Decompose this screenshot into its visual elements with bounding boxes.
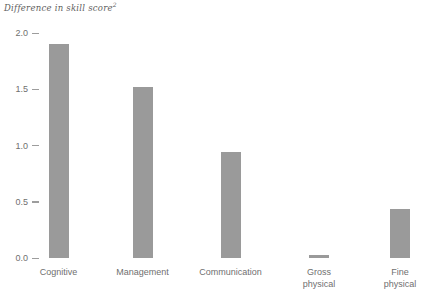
y-axis-tick: 0.5 (0, 196, 40, 208)
y-axis-tick-label: 1.0 (15, 140, 28, 152)
y-axis-tick-mark (32, 201, 39, 202)
y-axis-tick: 0.0 (0, 252, 40, 264)
x-axis-label-cognitive: Cognitive (40, 267, 78, 279)
y-axis-tick-mark (32, 89, 39, 90)
y-axis-tick-label: 0.5 (15, 196, 28, 208)
y-axis-tick-label: 0.0 (15, 252, 28, 264)
x-axis-label-fine-physical: Fine physical (384, 267, 417, 290)
y-axis-tick: 1.5 (0, 83, 40, 95)
y-axis-tick-label: 2.0 (15, 27, 28, 39)
plot-area: 0.00.51.01.52.0 CognitiveManagementCommu… (0, 0, 436, 302)
x-axis-label-communication: Communication (199, 267, 262, 279)
bar-communication (221, 152, 241, 258)
y-axis-tick: 1.0 (0, 140, 40, 152)
x-axis-label-gross-physical: Gross physical (303, 267, 336, 290)
bar-cognitive (49, 44, 69, 258)
y-axis-tick-label: 1.5 (15, 83, 28, 95)
bar-gross-physical (309, 255, 329, 258)
bar-management (133, 87, 153, 258)
y-axis-tick: 2.0 (0, 27, 40, 39)
bar-chart: Difference in skill score2 0.00.51.01.52… (0, 0, 436, 302)
x-axis-label-management: Management (116, 267, 169, 279)
y-axis-tick-mark (32, 258, 39, 259)
bar-fine-physical (390, 209, 410, 259)
y-axis-tick-mark (32, 145, 39, 146)
y-axis-tick-mark (32, 33, 39, 34)
